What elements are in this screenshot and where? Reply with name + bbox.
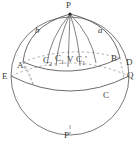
label-point-e: E <box>2 72 8 81</box>
label-point-q: Q <box>127 71 134 80</box>
diagram-canvas <box>0 0 140 145</box>
label-point-c1: C1 <box>55 54 64 65</box>
label-point-c2-sub: 2 <box>49 61 52 67</box>
label-point-c1-sub: 1 <box>61 59 64 65</box>
label-point-c1-prime: C1′ <box>76 55 87 66</box>
hidden-arc-right <box>120 58 124 80</box>
label-pole-bottom: P′ <box>64 131 71 140</box>
label-point-d: D <box>126 58 133 67</box>
label-point-c1-prime-mark: ′ <box>85 54 87 64</box>
pole-top-dot <box>68 12 71 15</box>
label-point-c: C <box>103 91 109 100</box>
label-point-v: V <box>67 55 74 64</box>
equator-front-arc <box>11 76 129 91</box>
label-point-a: A <box>17 61 24 70</box>
sphere-outline <box>11 17 129 135</box>
label-pole-bottom-prime: ′ <box>69 130 71 140</box>
label-pole-top: P <box>66 1 71 10</box>
label-point-c2: C2 <box>43 56 52 67</box>
meridian-arc-a <box>70 14 120 58</box>
label-point-b: B <box>111 54 117 63</box>
sphere-geometry-figure: P P′ A B D E Q C V C2 C1 C1′ b a <box>0 0 140 145</box>
equator-back-arc <box>11 63 129 76</box>
label-arc-a: a <box>98 26 103 35</box>
label-arc-b: b <box>35 26 40 35</box>
